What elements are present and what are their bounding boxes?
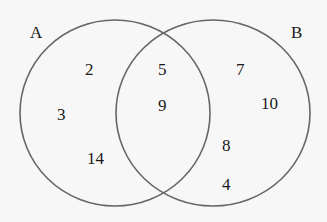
element-b-only: 7 — [236, 60, 245, 79]
element-b-only: 8 — [222, 136, 231, 155]
element-b-only: 4 — [222, 175, 231, 194]
circle-b — [116, 20, 310, 206]
venn-diagram: A B 2 3 14 5 9 7 10 8 4 — [0, 0, 327, 222]
element-a-only: 2 — [85, 60, 94, 79]
element-a-only: 3 — [57, 105, 66, 124]
set-label-a: A — [30, 23, 43, 42]
element-intersection: 5 — [158, 60, 167, 79]
element-intersection: 9 — [158, 96, 167, 115]
element-b-only: 10 — [261, 94, 278, 113]
set-label-b: B — [291, 23, 302, 42]
circle-a — [20, 20, 210, 206]
element-a-only: 14 — [87, 149, 105, 168]
venn-svg: A B 2 3 14 5 9 7 10 8 4 — [0, 0, 327, 222]
